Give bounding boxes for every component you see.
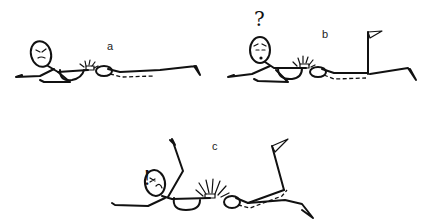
panel-a: a xyxy=(16,39,200,82)
panel-label-c: c xyxy=(212,140,218,152)
panel-c: c ! xyxy=(112,139,313,218)
panel-b: b ? xyxy=(228,7,416,82)
head-angry-icon xyxy=(28,39,54,69)
impact-burst-icon xyxy=(80,60,98,70)
impact-burst-icon xyxy=(293,56,315,68)
illustration: a b ? xyxy=(0,0,436,222)
panel-label-b: b xyxy=(322,28,328,40)
head-worried-icon xyxy=(250,37,270,63)
panel-label-a: a xyxy=(107,40,114,52)
question-mark: ? xyxy=(254,7,265,31)
impact-burst-icon xyxy=(196,179,229,198)
